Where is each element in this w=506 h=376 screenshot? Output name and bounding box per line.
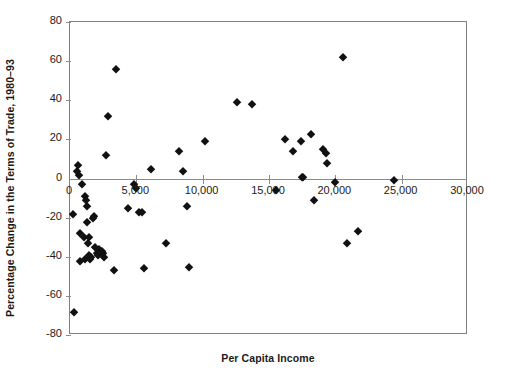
data-point: [354, 227, 362, 235]
y-axis-tick-label: -80: [20, 327, 62, 339]
plot-area: [69, 21, 467, 334]
y-axis-tick-label: 0: [20, 171, 62, 183]
data-point: [289, 147, 297, 155]
y-axis-title: Percentage Change in the Terms of Trade,…: [0, 0, 20, 376]
y-axis-tick: [66, 296, 71, 297]
y-axis-tick-label: 60: [20, 53, 62, 65]
data-point: [233, 98, 241, 106]
data-point: [183, 202, 191, 210]
x-axis-tick-label: 25,000: [371, 184, 431, 196]
data-point: [310, 196, 318, 204]
y-axis-tick-label: -60: [20, 288, 62, 300]
data-point: [83, 202, 91, 210]
y-axis-tick: [66, 218, 71, 219]
y-axis-tick: [66, 335, 71, 336]
y-axis-tick-label: 80: [20, 14, 62, 26]
x-axis-tick-label: 0: [39, 184, 99, 196]
data-point: [102, 151, 110, 159]
data-point: [339, 53, 347, 61]
x-axis-title: Per Capita Income: [69, 352, 467, 364]
y-axis-tick: [66, 22, 71, 23]
data-point: [105, 112, 113, 120]
data-point: [175, 147, 183, 155]
scatter-plot-figure: Percentage Change in the Terms of Trade,…: [0, 0, 506, 376]
data-point: [140, 265, 148, 273]
data-point: [162, 239, 170, 247]
data-point: [281, 135, 289, 143]
x-axis-tick-label: 15,000: [238, 184, 298, 196]
data-point: [323, 159, 331, 167]
y-axis-tick-label: 40: [20, 92, 62, 104]
data-point: [101, 253, 109, 261]
data-point: [110, 266, 118, 274]
data-point: [201, 137, 209, 145]
data-point: [343, 239, 351, 247]
x-axis-tick: [402, 175, 403, 184]
data-point: [179, 167, 187, 175]
y-axis-tick: [66, 139, 71, 140]
data-point: [147, 165, 155, 173]
x-axis-tick-label: 10,000: [172, 184, 232, 196]
data-point: [124, 204, 132, 212]
data-point: [297, 137, 305, 145]
data-point: [307, 130, 315, 138]
y-axis-tick: [66, 257, 71, 258]
data-point: [112, 65, 120, 73]
y-axis-tick-label: 20: [20, 131, 62, 143]
x-axis-tick: [269, 175, 270, 184]
y-axis-tick-label: -20: [20, 210, 62, 222]
data-point: [69, 210, 77, 218]
x-axis-tick-label: 30,000: [437, 184, 497, 196]
y-axis-tick: [66, 100, 71, 101]
x-axis-tick-label: 20,000: [304, 184, 364, 196]
x-axis-tick: [203, 175, 204, 184]
data-point: [322, 149, 330, 157]
data-point: [70, 308, 78, 316]
x-axis-tick-label: 5,000: [105, 184, 165, 196]
y-axis-tick: [66, 61, 71, 62]
y-axis-tick-label: -40: [20, 249, 62, 261]
x-axis-zero-line: [70, 179, 466, 180]
data-point: [185, 263, 193, 271]
data-point: [248, 100, 256, 108]
